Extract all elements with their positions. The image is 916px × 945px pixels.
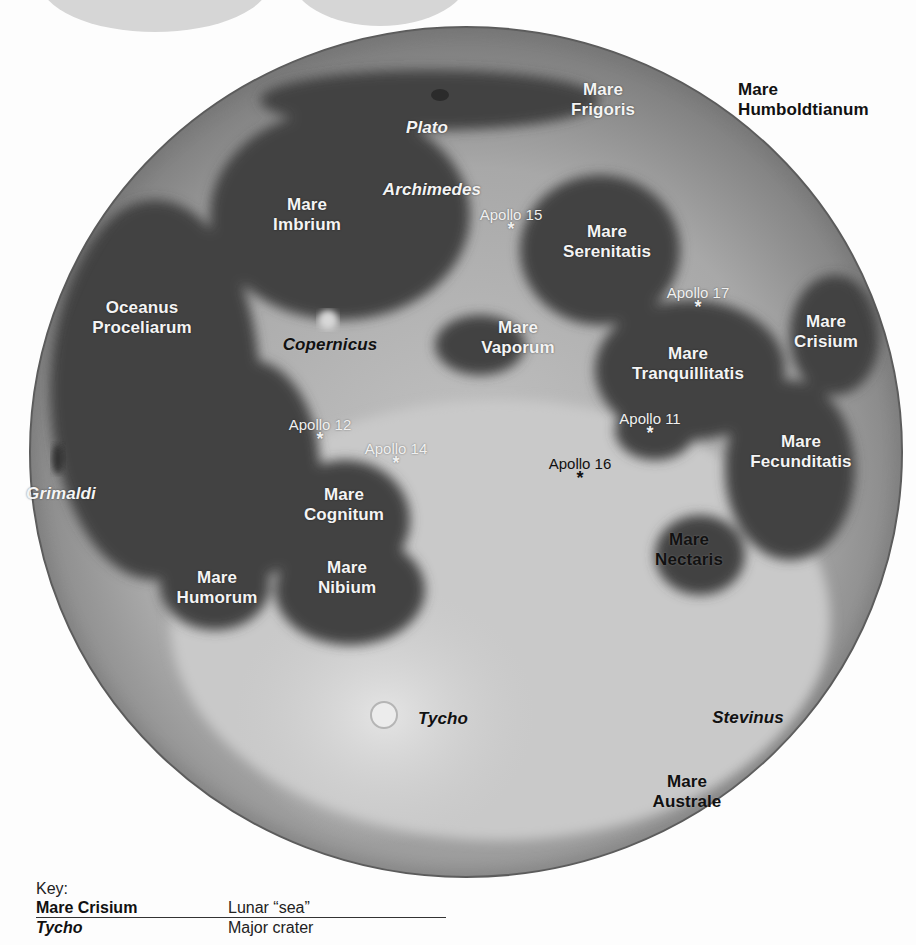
- key-term-crater-example: Tycho: [36, 919, 228, 938]
- landing-marker-icon: *: [549, 472, 612, 484]
- label-mare-cognitum: Mare Cognitum: [304, 485, 384, 525]
- moon-disc: [0, 0, 916, 945]
- landing-site-apollo-14: Apollo 14 *: [365, 440, 428, 469]
- landing-site-apollo-11: Apollo 11 *: [619, 410, 680, 439]
- landing-marker-icon: *: [365, 457, 428, 469]
- label-mare-tranquillitatis: Mare Tranquillitatis: [632, 344, 744, 384]
- label-mare-fecunditatis: Mare Fecunditatis: [750, 432, 851, 472]
- label-crater-tycho: Tycho: [418, 709, 468, 729]
- label-mare-nectaris: Mare Nectaris: [655, 530, 723, 570]
- landing-marker-icon: *: [480, 223, 543, 235]
- label-oceanus-proceliarum: Oceanus Proceliarum: [92, 298, 191, 338]
- label-mare-vaporum: Mare Vaporum: [481, 318, 554, 358]
- landing-site-apollo-15: Apollo 15 *: [480, 206, 543, 235]
- key-row-lunar-sea: Mare Crisium Lunar “sea”: [36, 899, 446, 918]
- landing-site-apollo-12: Apollo 12 *: [289, 416, 352, 445]
- landing-marker-icon: *: [667, 301, 730, 313]
- key-title: Key:: [36, 880, 446, 899]
- label-crater-plato: Plato: [406, 118, 448, 138]
- moon-map: Mare Frigoris Mare Humboldtianum Mare Im…: [0, 0, 916, 945]
- label-mare-australe: Mare Australe: [653, 772, 722, 812]
- label-mare-humboldtianum: Mare Humboldtianum: [738, 80, 869, 120]
- label-crater-grimaldi: Grimaldi: [26, 484, 96, 504]
- landing-site-apollo-17: Apollo 17 *: [667, 284, 730, 313]
- label-mare-crisium: Mare Crisium: [794, 312, 858, 352]
- label-crater-stevinus: Stevinus: [712, 708, 784, 728]
- landing-marker-icon: *: [619, 427, 680, 439]
- label-mare-serenitatis: Mare Serenitatis: [563, 222, 651, 262]
- label-mare-humorum: Mare Humorum: [177, 568, 258, 608]
- landing-site-apollo-16: Apollo 16 *: [549, 455, 612, 484]
- key-description-crater: Major crater: [228, 919, 313, 938]
- key-description-sea: Lunar “sea”: [228, 899, 310, 917]
- landing-marker-icon: *: [289, 433, 352, 445]
- key-row-major-crater: Tycho Major crater: [36, 919, 446, 938]
- label-crater-copernicus: Copernicus: [283, 335, 378, 355]
- map-key: Key: Mare Crisium Lunar “sea” Tycho Majo…: [36, 880, 446, 938]
- label-crater-archimedes: Archimedes: [383, 180, 481, 200]
- label-mare-frigoris: Mare Frigoris: [571, 80, 635, 120]
- key-term-sea-example: Mare Crisium: [36, 899, 228, 917]
- label-mare-nibium: Mare Nibium: [318, 558, 376, 598]
- label-mare-imbrium: Mare Imbrium: [273, 195, 341, 235]
